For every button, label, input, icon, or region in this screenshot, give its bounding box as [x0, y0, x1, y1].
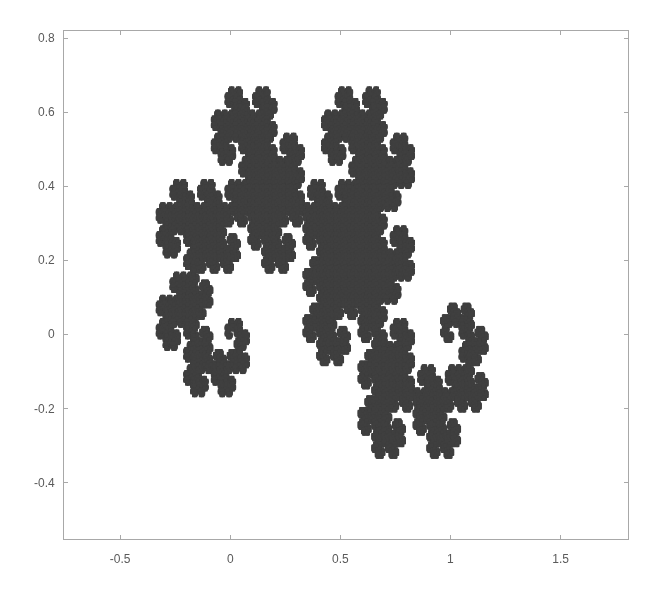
y-tick-mark — [624, 260, 629, 261]
y-tick-mark — [63, 186, 68, 187]
x-tick-mark — [450, 30, 451, 35]
x-tick-mark — [230, 535, 231, 540]
y-tick-mark — [624, 112, 629, 113]
y-tick-label: 0.8 — [38, 31, 55, 45]
x-tick-mark — [340, 30, 341, 35]
y-tick-mark — [63, 482, 68, 483]
x-tick-mark — [340, 535, 341, 540]
y-tick-mark — [624, 334, 629, 335]
x-tick-label: 0.5 — [332, 552, 349, 566]
y-tick-mark — [624, 482, 629, 483]
x-tick-mark — [560, 30, 561, 35]
x-tick-mark — [560, 535, 561, 540]
x-tick-label: 0 — [227, 552, 234, 566]
x-tick-mark — [120, 535, 121, 540]
y-tick-mark — [63, 408, 68, 409]
figure: -0.500.511.5 0.80.60.40.20-0.2-0.4 — [0, 0, 662, 597]
x-tick-label: -0.5 — [110, 552, 131, 566]
y-tick-label: 0.6 — [38, 105, 55, 119]
y-tick-mark — [624, 38, 629, 39]
y-tick-mark — [63, 334, 68, 335]
y-tick-mark — [63, 38, 68, 39]
x-tick-mark — [230, 30, 231, 35]
x-tick-mark — [120, 30, 121, 35]
y-tick-mark — [63, 260, 68, 261]
y-tick-mark — [624, 186, 629, 187]
y-tick-label: 0.2 — [38, 253, 55, 267]
y-tick-mark — [624, 408, 629, 409]
x-tick-label: 1.5 — [552, 552, 569, 566]
y-tick-label: 0 — [48, 327, 55, 341]
x-tick-label: 1 — [447, 552, 454, 566]
y-tick-label: 0.4 — [38, 179, 55, 193]
y-tick-label: -0.2 — [34, 402, 55, 416]
y-tick-label: -0.4 — [34, 476, 55, 490]
y-tick-mark — [63, 112, 68, 113]
axes-box — [63, 30, 629, 540]
x-tick-mark — [450, 535, 451, 540]
